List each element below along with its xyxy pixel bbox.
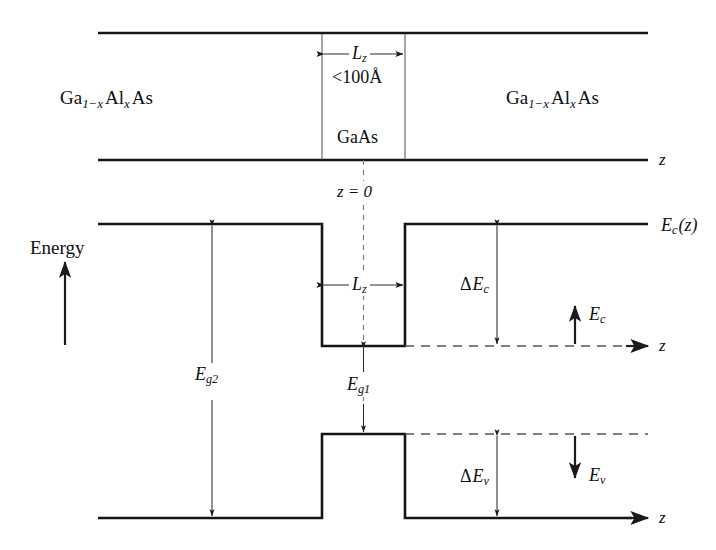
- well-width-value-label: <100Å: [332, 68, 382, 86]
- left-material-sub2: x: [124, 96, 130, 111]
- ecdir-base: E: [589, 304, 600, 324]
- cond-lz-sub: z: [362, 282, 367, 296]
- band-diagram-figure: Ga1−xAlxAs Ga1−xAlxAs Lz <100Å GaAs z z …: [0, 0, 716, 550]
- ec-base: E: [661, 215, 672, 235]
- eg1-base: E: [347, 374, 358, 394]
- dEv-sub: v: [484, 474, 489, 488]
- right-material-base3: As: [578, 87, 599, 108]
- eg2-sub: g2: [206, 372, 218, 386]
- evdir-sub: v: [600, 473, 605, 487]
- left-material-base2: Al: [105, 87, 124, 108]
- ec-arg: (z): [678, 215, 697, 235]
- slab-lz-base: L: [352, 43, 362, 63]
- conduction-offset-label: ΔEc: [457, 274, 492, 297]
- valence-direction-label: Ev: [589, 466, 605, 487]
- dEc-delta: Δ: [460, 274, 472, 294]
- left-material-base1: Ga: [60, 87, 82, 108]
- valence-offset-label: ΔEv: [457, 466, 492, 489]
- right-material-sub1: 1−x: [528, 96, 549, 111]
- well-material-label: GaAs: [337, 128, 378, 146]
- barrier-gap-label: Eg2: [192, 364, 221, 387]
- valence-band-curve: [98, 434, 648, 518]
- conduction-axis-label: z: [659, 337, 666, 354]
- dEc-sub: c: [484, 282, 489, 296]
- left-material-base3: As: [132, 87, 153, 108]
- conduction-curve-label: Ec(z): [661, 216, 697, 237]
- evdir-base: E: [589, 465, 600, 485]
- right-material-sub2: x: [570, 96, 576, 111]
- slab-well-width-label: Lz: [349, 44, 370, 65]
- right-material-label: Ga1−xAlxAs: [506, 88, 599, 111]
- energy-axis-label: Energy: [30, 238, 85, 257]
- dEv-delta: Δ: [460, 466, 472, 486]
- eg2-base: E: [195, 364, 206, 384]
- conduction-direction-label: Ec: [589, 305, 605, 326]
- slab-axis-label: z: [659, 151, 666, 168]
- eg1-sub: g1: [358, 382, 370, 396]
- slab-lz-sub: z: [362, 51, 367, 65]
- origin-label: z = 0: [337, 183, 372, 200]
- origin-label-text: z = 0: [337, 182, 372, 201]
- right-material-base1: Ga: [506, 87, 528, 108]
- right-material-base2: Al: [551, 87, 570, 108]
- left-material-sub1: 1−x: [82, 96, 103, 111]
- dEc-base: E: [473, 274, 484, 294]
- valence-axis-label: z: [659, 509, 666, 526]
- ec-sub: c: [672, 223, 677, 237]
- dEv-base: E: [473, 466, 484, 486]
- well-gap-label: Eg1: [344, 374, 373, 397]
- ecdir-sub: c: [600, 312, 605, 326]
- conduction-well-width-label: Lz: [349, 275, 370, 296]
- cond-lz-base: L: [352, 274, 362, 294]
- left-material-label: Ga1−xAlxAs: [60, 88, 153, 111]
